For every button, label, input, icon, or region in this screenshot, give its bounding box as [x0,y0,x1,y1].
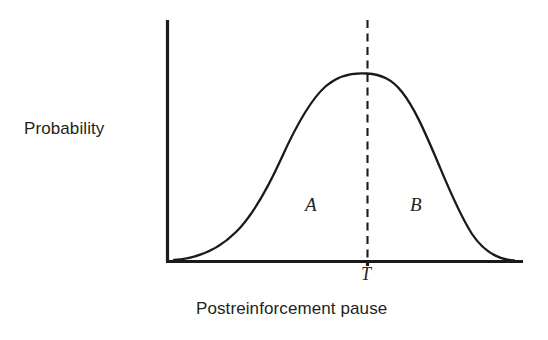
threshold-label: T [361,264,371,285]
region-b-label: B [410,194,422,216]
y-axis-label: Probability [24,119,104,139]
probability-distribution-chart [0,0,548,340]
x-axis-label: Postreinforcement pause [196,299,387,319]
region-a-label: A [305,194,317,216]
distribution-curve [174,73,514,260]
figure-container: Probability Postreinforcement pause A B … [0,0,548,340]
